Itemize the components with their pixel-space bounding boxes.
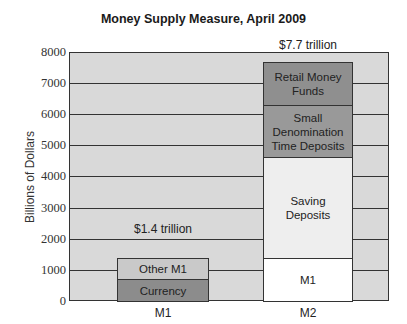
segment-m1-in-m2: M1: [264, 258, 352, 301]
m2-total-label: $7.7 trillion: [263, 38, 353, 52]
y-tick-2000: 2000: [14, 232, 66, 247]
y-tick-3000: 3000: [14, 201, 66, 216]
y-tick-1000: 1000: [14, 263, 66, 278]
segment-currency: Currency: [118, 279, 208, 301]
y-tick-7000: 7000: [14, 76, 66, 91]
y-tick-5000: 5000: [14, 138, 66, 153]
y-tick-8000: 8000: [14, 45, 66, 60]
m1-total-label: $1.4 trillion: [117, 222, 209, 236]
segment-small-time-deposits: Small Denomination Time Deposits: [264, 105, 352, 157]
segment-other-m1: Other M1: [118, 259, 208, 279]
y-tick-0: 0: [14, 294, 66, 309]
y-tick-4000: 4000: [14, 169, 66, 184]
x-tick-m2: M2: [263, 306, 353, 320]
bar-m2: Retail Money Funds Small Denomination Ti…: [263, 62, 353, 302]
y-tick-6000: 6000: [14, 107, 66, 122]
bar-m1: Other M1 Currency: [117, 258, 209, 302]
segment-retail-money-funds: Retail Money Funds: [264, 63, 352, 105]
segment-saving-deposits: Saving Deposits: [264, 157, 352, 258]
chart-title: Money Supply Measure, April 2009: [0, 12, 407, 26]
x-tick-m1: M1: [117, 306, 209, 320]
